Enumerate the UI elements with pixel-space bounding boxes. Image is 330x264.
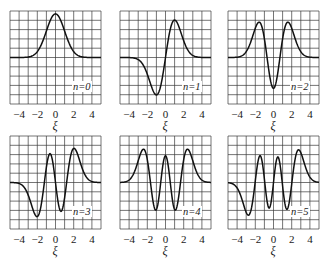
x-axis-label: ξ	[162, 244, 167, 259]
x-tick-label: 4	[307, 233, 313, 245]
x-tick-label: 4	[199, 108, 205, 120]
x-tick-label: −2	[249, 233, 261, 245]
panel-label: n=2	[290, 81, 310, 92]
panel-label: n=3	[72, 206, 92, 217]
x-tick-label: −2	[141, 233, 153, 245]
x-tick-label: 2	[181, 233, 187, 245]
x-tick-label: −4	[123, 233, 135, 245]
panel-n0: n=0−4−2024ξ	[0, 0, 110, 132]
x-tick-label: 2	[71, 233, 77, 245]
x-tick-label: 2	[289, 233, 295, 245]
x-tick-label: −4	[13, 233, 25, 245]
panel-label: n=4	[182, 206, 202, 217]
panel-label: n=5	[290, 206, 310, 217]
x-tick-label: −4	[231, 233, 243, 245]
panel-label: n=0	[72, 81, 92, 92]
x-tick-label: 2	[289, 108, 295, 120]
x-tick-label: 4	[89, 233, 95, 245]
x-tick-label: 2	[181, 108, 187, 120]
x-tick-label: −4	[13, 108, 25, 120]
x-axis-label: ξ	[52, 244, 57, 259]
x-tick-label: 4	[199, 233, 205, 245]
panel-label: n=1	[182, 81, 202, 92]
x-tick-label: −4	[123, 108, 135, 120]
x-tick-label: −4	[231, 108, 243, 120]
panel-n2: n=2−4−2024ξ	[218, 0, 328, 132]
panel-n3: n=3−4−2024ξ	[0, 125, 110, 257]
x-axis-label: ξ	[270, 244, 275, 259]
x-tick-label: −2	[249, 108, 261, 120]
x-tick-label: 2	[71, 108, 77, 120]
panel-n4: n=4−4−2024ξ	[110, 125, 220, 257]
panel-n1: n=1−4−2024ξ	[110, 0, 220, 132]
x-tick-label: −2	[141, 108, 153, 120]
x-tick-label: 4	[307, 108, 313, 120]
x-tick-label: −2	[31, 108, 43, 120]
x-tick-label: 4	[89, 108, 95, 120]
x-tick-label: −2	[31, 233, 43, 245]
panel-n5: n=5−4−2024ξ	[218, 125, 328, 257]
